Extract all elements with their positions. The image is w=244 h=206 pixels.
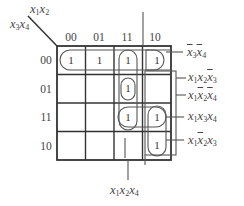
- column-headers: 00 01 11 10: [65, 31, 161, 43]
- cell-11-11: 1: [125, 111, 131, 123]
- row-headers: 00 01 11 10: [40, 54, 52, 152]
- col-header-10: 10: [149, 31, 161, 43]
- corner-diagonal: [28, 16, 57, 46]
- label-x1-x2-x3bar: x1x2x3: [188, 71, 217, 85]
- karnaugh-map-diagram: 00 01 11 10 00 01 11 10 1 1 1 1 1 1 1 1: [0, 0, 244, 206]
- row-header-00: 00: [40, 54, 52, 66]
- cell-00-01: 1: [97, 54, 103, 66]
- col-header-01: 01: [93, 31, 105, 43]
- cell-00-00: 1: [68, 54, 74, 66]
- corner-top-var-label: x1x2: [30, 3, 49, 17]
- row-header-01: 01: [40, 83, 52, 95]
- cell-00-10: 1: [154, 54, 160, 66]
- col-header-11: 11: [121, 31, 132, 43]
- label-x1-x2bar-x3: x1x2x3: [188, 134, 217, 148]
- label-x1-x3-x4: x1x3x4: [188, 110, 217, 124]
- col-header-00: 00: [65, 31, 77, 43]
- cell-10-10: 1: [154, 139, 160, 151]
- cell-00-11: 1: [125, 54, 131, 66]
- label-x3bar-x4bar: x3x4: [187, 46, 206, 60]
- row-header-10: 10: [40, 140, 52, 152]
- label-x1-x2-x4: x1x2x4: [110, 184, 139, 198]
- cell-11-10: 1: [154, 111, 160, 123]
- corner-left-var-label: x3x4: [10, 18, 29, 32]
- row-header-11: 11: [40, 111, 51, 123]
- label-x1-x2bar-x4bar: x1x2x4: [188, 89, 217, 103]
- cell-01-11: 1: [125, 82, 131, 94]
